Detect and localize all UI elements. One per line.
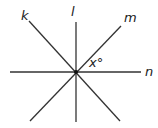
angle-label-x: x° [88,55,103,70]
label-k: k [21,8,29,23]
label-n: n [145,64,153,79]
intersection-point [74,70,78,74]
label-l: l [71,4,75,19]
intersecting-lines-diagram: k l m n x° [0,0,158,128]
label-m: m [124,10,137,25]
